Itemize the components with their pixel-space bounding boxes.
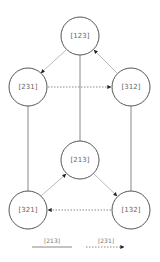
legend-solid-label: [213]	[44, 237, 60, 244]
node-label: [213]	[71, 156, 90, 164]
edge-312-to-123	[94, 50, 117, 73]
node-213: [213]	[61, 141, 99, 179]
legend-dashed-label: [231]	[98, 237, 114, 244]
node-label: [123]	[71, 32, 90, 40]
node-231: [231]	[9, 68, 47, 106]
legend: [213] [231]	[32, 237, 124, 247]
permutation-diagram: [123] [231] [312] [213] [321] [132] [213…	[0, 0, 160, 262]
node-label: [132]	[122, 206, 141, 214]
node-132: [132]	[112, 191, 150, 229]
node-123: [123]	[61, 17, 99, 55]
node-label: [231]	[19, 83, 38, 91]
node-label: [321]	[19, 206, 38, 214]
node-label: [312]	[122, 83, 141, 91]
edge-213-to-132	[94, 174, 117, 196]
edge-321-to-213	[41, 174, 66, 196]
edge-123-to-231	[41, 50, 66, 73]
node-312: [312]	[112, 68, 150, 106]
node-321: [321]	[9, 191, 47, 229]
